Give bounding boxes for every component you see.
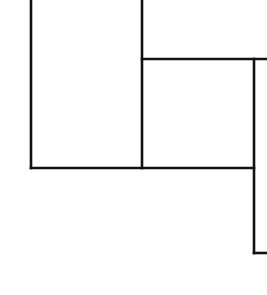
line-diagram <box>0 0 267 295</box>
diagram-background <box>0 0 267 295</box>
